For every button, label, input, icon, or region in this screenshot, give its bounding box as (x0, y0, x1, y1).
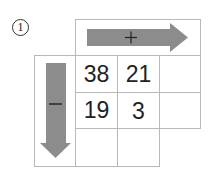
grid-cell-r1c3[interactable] (160, 56, 200, 92)
grid-cell-r1c1: 38 (76, 56, 117, 92)
grid-cell-r1c2: 21 (118, 56, 159, 92)
grid-cell-r3c1[interactable] (76, 129, 117, 166)
grid-cell-r2c3[interactable] (160, 93, 200, 128)
grid-cell-r2c2: 3 (118, 93, 159, 130)
grid-cell-r3c2[interactable] (118, 129, 159, 166)
down-arrow-icon (40, 63, 71, 158)
grid-cell-r2c1: 19 (76, 93, 117, 128)
right-arrow-icon (87, 23, 188, 52)
